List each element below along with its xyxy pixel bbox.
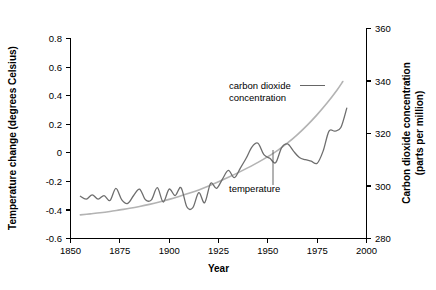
right-tick-label-360: 360 (375, 23, 391, 34)
right-tick-label-300: 300 (375, 181, 391, 192)
right-tick-label-280: 280 (375, 233, 391, 244)
left-tick-label--0.4: -0.4 (46, 205, 62, 216)
x-tick-label-2000: 2000 (356, 245, 377, 256)
climate-dual-axis-line-chart: 0.8 0.6 0.4 0.2 0 -0.2 -0.4 -0.6 1850 18… (0, 0, 436, 290)
left-tick-label-0: 0 (57, 147, 62, 158)
x-tick-label-1875: 1875 (109, 245, 130, 256)
bottom-axis-ticks: 1850 1875 1900 1925 1950 1975 2000 (60, 239, 377, 257)
annotation-carbon-dioxide: carbon dioxide concentration (229, 80, 325, 103)
x-tick-label-1850: 1850 (60, 245, 81, 256)
x-tick-label-1925: 1925 (208, 245, 229, 256)
y-axis-title: Temperature change (degrees Celsius) (7, 46, 18, 230)
left-tick-label-0.4: 0.4 (49, 90, 62, 101)
x-tick-label-1950: 1950 (257, 245, 278, 256)
left-tick-label--0.6: -0.6 (46, 233, 62, 244)
annotation-temperature: temperature (229, 150, 280, 194)
right-axis-ticks: 360 340 320 300 280 (367, 23, 391, 244)
left-tick-label-0.8: 0.8 (49, 33, 62, 44)
left-tick-label--0.2: -0.2 (46, 176, 62, 187)
right-tick-label-320: 320 (375, 128, 391, 139)
annotation-co2-label-line2: concentration (229, 92, 286, 103)
left-axis-ticks: 0.8 0.6 0.4 0.2 0 -0.2 -0.4 -0.6 (46, 33, 71, 244)
data-series-group (80, 82, 346, 215)
left-tick-label-0.2: 0.2 (49, 119, 62, 130)
series-temperature (80, 108, 346, 209)
left-tick-label-0.6: 0.6 (49, 62, 62, 73)
annotation-co2-label-line1: carbon dioxide (229, 80, 291, 91)
annotation-temperature-label: temperature (229, 183, 280, 194)
x-axis-title: Year (208, 263, 229, 274)
y2-axis-title-line2: (parts per million) (414, 91, 425, 175)
x-tick-label-1975: 1975 (307, 245, 328, 256)
axes-frame (71, 28, 367, 239)
right-tick-label-340: 340 (375, 76, 391, 87)
y2-axis-title-line1: Carbon dioxide concentration (401, 62, 412, 204)
chart-figure: 0.8 0.6 0.4 0.2 0 -0.2 -0.4 -0.6 1850 18… (0, 0, 436, 290)
x-tick-label-1900: 1900 (159, 245, 180, 256)
